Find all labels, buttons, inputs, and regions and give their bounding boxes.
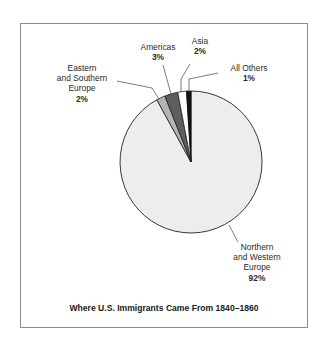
label-asia-pct: 2% (182, 46, 218, 56)
label-all-others: All Others 1% (214, 63, 284, 83)
label-eastern-southern-europe: Eastern and Southern Europe 2% (44, 63, 120, 104)
label-others-pct: 1% (214, 73, 284, 83)
label-americas-pct: 3% (128, 52, 188, 62)
label-eastern-pct: 2% (44, 94, 120, 104)
label-northern-western-europe: Northern and Western Europe 92% (222, 242, 292, 283)
label-asia: Asia 2% (182, 36, 218, 56)
label-americas: Americas 3% (128, 42, 188, 62)
chart-title: Where U.S. Immigrants Came From 1840–186… (20, 303, 308, 313)
leader-line-americas (163, 65, 171, 94)
leader-line-eastern (117, 81, 159, 99)
leader-line-northern (229, 225, 238, 242)
label-northern-pct: 92% (222, 273, 292, 283)
